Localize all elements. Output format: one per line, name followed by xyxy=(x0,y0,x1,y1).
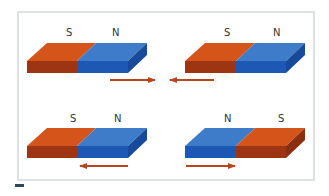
corner-mark xyxy=(15,184,24,187)
magnet-bottom-left xyxy=(27,128,147,158)
pole-label: N xyxy=(273,28,280,38)
magnet-bottom-right xyxy=(185,128,305,158)
pole-label: S xyxy=(70,114,76,124)
pole-label: S xyxy=(66,28,72,38)
magnet-top-right xyxy=(185,43,305,73)
pole-label: S xyxy=(224,28,230,38)
pole-label: N xyxy=(224,114,231,124)
pole-label: N xyxy=(114,114,121,124)
magnet-top-left xyxy=(27,43,147,73)
pole-label: S xyxy=(278,114,284,124)
pole-label: N xyxy=(112,28,119,38)
